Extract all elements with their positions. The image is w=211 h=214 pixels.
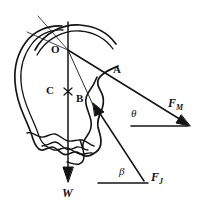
force-label-fm: FM bbox=[168, 97, 183, 112]
angle-label-theta: θ bbox=[131, 108, 136, 119]
cranial-top-arc-outer bbox=[35, 25, 116, 50]
force-label-fj: FJ bbox=[151, 171, 163, 186]
point-label-b: B bbox=[76, 93, 83, 104]
force-fj-subscript: J bbox=[159, 177, 163, 186]
force-w-symbol: W bbox=[62, 186, 73, 200]
force-w-arrowhead bbox=[63, 167, 73, 182]
force-fm-subscript: M bbox=[176, 103, 183, 112]
force-fm-arrowhead bbox=[176, 115, 190, 126]
point-label-o: O bbox=[51, 44, 60, 55]
force-label-w: W bbox=[62, 187, 73, 199]
point-label-a: A bbox=[113, 64, 121, 75]
force-fj-symbol: F bbox=[151, 170, 159, 184]
point-label-c: C bbox=[46, 85, 54, 96]
skull-free-body-diagram: O C A B FM FJ W θ β bbox=[0, 0, 211, 214]
skull-outline-group bbox=[15, 25, 118, 164]
angle-label-beta: β bbox=[119, 166, 124, 177]
force-fm-symbol: F bbox=[168, 96, 176, 110]
